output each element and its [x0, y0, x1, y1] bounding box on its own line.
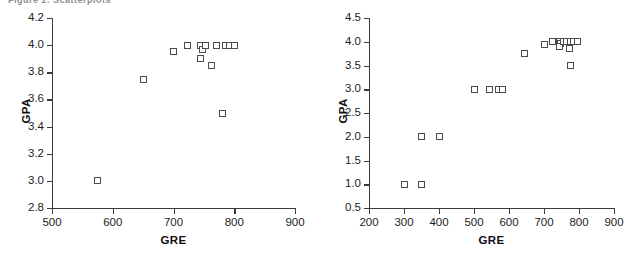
x-tick	[52, 209, 53, 214]
y-tick-label: 3.5	[345, 60, 361, 71]
y-axis-line	[369, 18, 370, 209]
x-tick-label: 700	[152, 217, 196, 228]
x-tick	[174, 209, 175, 214]
x-tick-label: 900	[273, 217, 317, 228]
y-tick	[364, 161, 369, 162]
y-tick	[47, 154, 52, 155]
y-tick-label: 4.2	[28, 12, 44, 23]
x-tick	[439, 209, 440, 214]
y-tick	[47, 99, 52, 100]
data-point	[436, 133, 443, 140]
data-point	[418, 133, 425, 140]
y-tick-label: 3.2	[28, 148, 44, 159]
y-axis-line	[52, 18, 53, 209]
y-tick	[364, 42, 369, 43]
y-tick	[47, 18, 52, 19]
plot-area-right: 0.51.01.52.02.53.03.54.04.52003004005006…	[319, 0, 638, 267]
x-tick-label: 800	[212, 217, 256, 228]
y-tick-label: 3.0	[28, 175, 44, 186]
y-tick-label: 1.5	[345, 155, 361, 166]
data-point	[219, 110, 226, 117]
data-point	[541, 41, 548, 48]
data-point	[140, 76, 147, 83]
x-tick	[579, 209, 580, 214]
y-tick-label: 4.0	[28, 39, 44, 50]
y-tick	[364, 184, 369, 185]
plot-area-left: 2.83.03.23.43.63.84.04.2500600700800900G…	[0, 0, 319, 267]
x-axis-title: GRE	[369, 234, 614, 246]
data-point	[521, 50, 528, 57]
y-axis-title: GPA	[20, 83, 32, 139]
y-tick	[364, 137, 369, 138]
x-tick	[295, 209, 296, 214]
y-tick-label: 3.8	[28, 66, 44, 77]
data-point	[566, 45, 573, 52]
y-tick	[364, 113, 369, 114]
data-point	[486, 86, 493, 93]
data-point	[549, 38, 556, 45]
x-tick	[113, 209, 114, 214]
x-axis-title: GRE	[52, 234, 295, 246]
y-tick	[47, 181, 52, 182]
data-point	[499, 86, 506, 93]
y-tick	[47, 72, 52, 73]
x-tick	[509, 209, 510, 214]
y-tick-label: 2.8	[28, 202, 44, 213]
data-point	[202, 42, 209, 49]
data-point	[208, 62, 215, 69]
data-point	[213, 42, 220, 49]
x-tick-label: 500	[30, 217, 74, 228]
x-tick	[474, 209, 475, 214]
y-tick	[47, 45, 52, 46]
y-tick	[364, 18, 369, 19]
data-point	[401, 181, 408, 188]
x-tick-label: 600	[91, 217, 135, 228]
data-point	[94, 177, 101, 184]
data-point	[418, 181, 425, 188]
y-tick	[47, 127, 52, 128]
x-tick-label: 900	[592, 217, 636, 228]
data-point	[184, 42, 191, 49]
scatter-panel-left: 2.83.03.23.43.63.84.04.2500600700800900G…	[0, 0, 319, 267]
data-point	[170, 48, 177, 55]
figure-canvas: Figure 2. Scatterplots 2.83.03.23.43.63.…	[0, 0, 638, 267]
x-tick	[544, 209, 545, 214]
x-tick	[614, 209, 615, 214]
data-point	[471, 86, 478, 93]
y-tick	[364, 66, 369, 67]
data-point	[567, 62, 574, 69]
data-point	[197, 55, 204, 62]
x-tick	[404, 209, 405, 214]
y-tick-label: 0.5	[345, 202, 361, 213]
y-tick-label: 4.5	[345, 12, 361, 23]
data-point	[574, 38, 581, 45]
y-axis-title: GPA	[337, 83, 349, 139]
data-point	[231, 42, 238, 49]
y-tick	[364, 89, 369, 90]
x-tick	[234, 209, 235, 214]
scatter-panel-right: 0.51.01.52.02.53.03.54.04.52003004005006…	[319, 0, 638, 267]
x-tick	[369, 209, 370, 214]
y-tick-label: 1.0	[345, 178, 361, 189]
y-tick-label: 4.0	[345, 36, 361, 47]
